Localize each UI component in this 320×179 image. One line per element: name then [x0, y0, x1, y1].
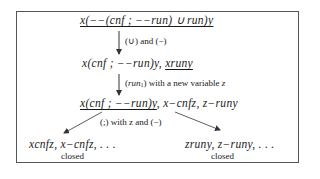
right-leaf-status: closed	[211, 151, 234, 162]
step2-suffix: , x−cnfz, z−runy	[157, 97, 238, 109]
new-variable: z	[222, 78, 226, 88]
rule-name: run	[128, 78, 141, 88]
node-right-leaf: zruny, z−runy, . . .	[185, 138, 274, 151]
edge-label-union-minus: (∪) and (−)	[125, 36, 167, 47]
step1-selected-term: xruny	[165, 57, 193, 69]
step2-selected-term: x(cnf ; −−run)y	[80, 97, 157, 109]
node-step1: x(cnf ; −−run)y, xruny	[82, 57, 193, 70]
node-left-leaf: xcnfz, x−cnfz, . . .	[29, 138, 116, 151]
node-root: x(−−(cnf ; −−run) ∪ run)y	[80, 14, 213, 27]
edge-label-run1: (run1) with a new variable z	[125, 78, 225, 91]
step1-prefix: x(cnf ; −−run)y,	[82, 57, 165, 69]
node-step2: x(cnf ; −−run)y, x−cnfz, z−runy	[80, 97, 238, 110]
rule-description: with a new variable	[147, 78, 222, 88]
rule-subscript: 1	[141, 82, 144, 88]
edge-label-seq: (;) with z and (−)	[100, 117, 162, 128]
left-leaf-status: closed	[61, 151, 84, 162]
